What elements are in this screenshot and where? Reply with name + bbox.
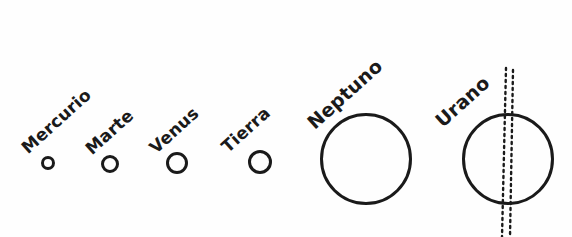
planet-circles-layer bbox=[0, 0, 572, 237]
planet-label-marte: Marte bbox=[81, 105, 137, 158]
planet-circle-urano bbox=[462, 113, 554, 205]
planet-label-tierra: Tierra bbox=[217, 102, 274, 156]
planet-circle-neptuno bbox=[320, 113, 412, 205]
planet-circle-marte bbox=[101, 155, 119, 173]
planet-circle-venus bbox=[166, 152, 188, 174]
planet-label-venus: Venus bbox=[145, 103, 202, 157]
planet-circle-mercurio bbox=[41, 156, 55, 170]
planet-circle-tierra bbox=[248, 150, 272, 174]
planet-size-diagram: Mercurio Marte Venus Tierra Neptuno Uran… bbox=[0, 0, 572, 237]
